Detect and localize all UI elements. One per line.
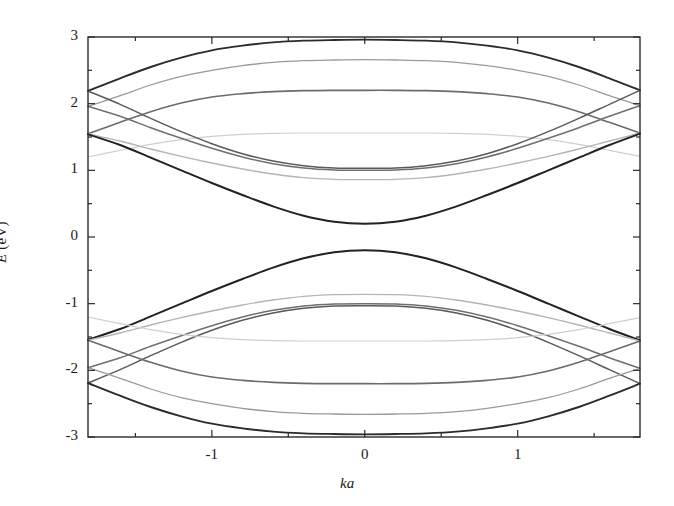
x-tick-label-1: 0 — [340, 446, 390, 463]
band-structure-figure: -3-2-10123-101 E (eV) ka — [0, 0, 674, 506]
axis-ticks-group — [88, 37, 640, 437]
y-axis-label-unit: (eV) — [0, 221, 9, 249]
x-axis-label: ka — [340, 475, 355, 492]
y-tick-label-6: 3 — [40, 27, 78, 44]
band-curve-c3 — [88, 106, 640, 171]
band-curve-v7 — [88, 368, 640, 415]
band-curve-c2 — [88, 133, 640, 180]
y-axis-label: E (eV) — [0, 241, 73, 263]
plot-canvas — [0, 0, 674, 506]
x-tick-label-0: -1 — [187, 446, 237, 463]
plot-frame — [88, 37, 640, 437]
band-curve-c4 — [88, 90, 640, 168]
band-curve-c8 — [88, 40, 640, 91]
y-tick-label-1: -2 — [40, 360, 78, 377]
band-curve-v3 — [88, 304, 640, 369]
x-tick-label-2: 1 — [493, 446, 543, 463]
axes-frame-group — [88, 37, 640, 437]
y-tick-label-0: -3 — [40, 427, 78, 444]
band-curve-v4 — [88, 306, 640, 384]
band-curve-c1 — [88, 134, 640, 224]
y-tick-label-4: 1 — [40, 160, 78, 177]
band-curve-v2 — [88, 294, 640, 341]
band-curve-v1 — [88, 250, 640, 340]
band-curve-c7 — [88, 60, 640, 107]
y-axis-label-unit-space — [0, 250, 9, 254]
y-tick-label-5: 2 — [40, 94, 78, 111]
band-curves-group — [88, 40, 640, 435]
band-curve-v8 — [88, 383, 640, 434]
y-axis-label-symbol: E — [0, 254, 9, 263]
y-tick-label-2: -1 — [40, 294, 78, 311]
